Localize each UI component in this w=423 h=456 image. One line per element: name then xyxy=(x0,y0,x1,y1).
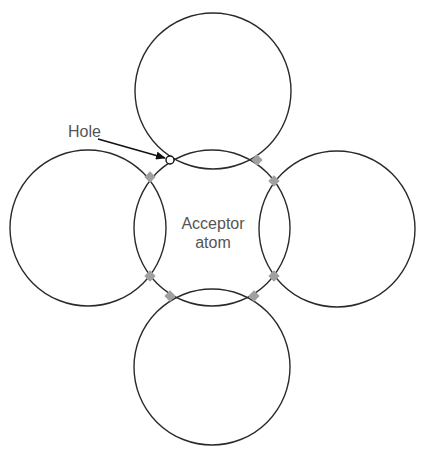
top-atom-circle xyxy=(135,13,291,169)
hole-label: Hole xyxy=(68,122,101,141)
bond-electron-dot xyxy=(248,290,259,301)
bond-electron-dot xyxy=(251,154,262,165)
acceptor-atom-diagram: Hole Acceptor atom xyxy=(0,0,423,456)
acceptor-label-line2: atom xyxy=(170,233,256,252)
acceptor-atom-label: Acceptor atom xyxy=(170,214,256,252)
acceptor-label-line1: Acceptor xyxy=(170,214,256,233)
left-atom-circle xyxy=(10,150,166,306)
bottom-atom-circle xyxy=(134,289,290,445)
hole-pointer-arrow xyxy=(98,139,165,158)
hole-marker xyxy=(166,156,174,164)
bond-electron-dot xyxy=(164,290,175,301)
bond-electron-dot xyxy=(144,171,155,182)
right-atom-circle xyxy=(259,151,415,307)
